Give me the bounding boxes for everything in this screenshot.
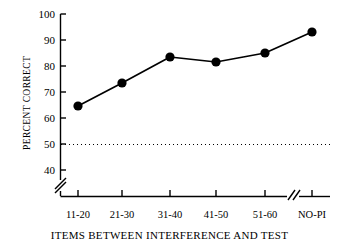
- data-point-marker: [211, 57, 220, 66]
- y-axis-break-icon: [55, 178, 66, 193]
- data-point-marker: [260, 48, 269, 57]
- chart-figure: PERCENT CORRECT 100 90 80 70 60 50 40 11…: [0, 0, 339, 247]
- data-point-marker: [117, 78, 126, 87]
- plot-area: [0, 0, 339, 247]
- data-point-marker: [307, 27, 316, 36]
- data-point-marker: [73, 101, 82, 110]
- x-axis-ticks: [78, 190, 312, 197]
- data-point-marker: [165, 52, 174, 61]
- x-axis-break-icon: [288, 190, 300, 200]
- data-series-line: [78, 32, 312, 106]
- y-axis-ticks: [61, 14, 67, 170]
